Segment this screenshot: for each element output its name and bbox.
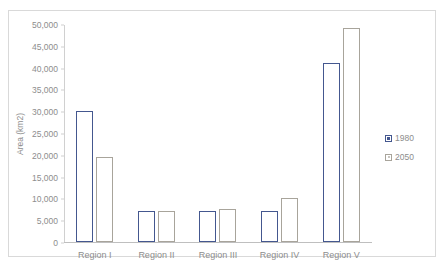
y-axis-tick-label: 45,000	[12, 42, 58, 52]
bar-group-bars	[249, 24, 311, 242]
bar-2050-region-iii[interactable]	[219, 209, 236, 242]
bar-2050-region-iv[interactable]	[281, 198, 298, 242]
y-axis-tick-label: 0	[12, 238, 58, 248]
y-axis-tick-label: 5,000	[12, 216, 58, 226]
bar-1980-region-v[interactable]	[323, 63, 340, 242]
bar-1980-region-iii[interactable]	[199, 211, 216, 242]
legend-item-1980[interactable]: 1980	[385, 133, 431, 143]
x-axis-tick-label: Region II	[126, 250, 188, 260]
plot-area: 05,00010,00015,00020,00025,00030,00035,0…	[64, 25, 372, 243]
legend-swatch-icon	[385, 154, 392, 161]
bar-group: Region II	[126, 24, 188, 242]
y-axis-tick-label: 20,000	[12, 151, 58, 161]
y-axis-tick-label: 10,000	[12, 194, 58, 204]
bar-1980-region-i[interactable]	[76, 111, 93, 242]
chart-frame: Area (km2) 05,00010,00015,00020,00025,00…	[8, 10, 436, 257]
bar-2050-region-ii[interactable]	[158, 211, 175, 242]
y-axis-tick-label: 50,000	[12, 20, 58, 30]
bar-1980-region-ii[interactable]	[138, 211, 155, 242]
x-axis-tick-label: Region IV	[249, 250, 311, 260]
y-axis-tick-label: 30,000	[12, 107, 58, 117]
y-axis-tick-label: 40,000	[12, 64, 58, 74]
legend-item-2050[interactable]: 2050	[385, 152, 431, 162]
legend-label: 2050	[395, 152, 414, 162]
y-axis-tick-label: 25,000	[12, 129, 58, 139]
legend-swatch-icon	[385, 135, 392, 142]
legend-label: 1980	[395, 133, 414, 143]
bar-1980-region-iv[interactable]	[261, 211, 278, 242]
bar-group: Region IV	[249, 24, 311, 242]
bar-group-bars	[187, 24, 249, 242]
x-axis-tick-label: Region I	[64, 250, 126, 260]
bar-group-bars	[64, 24, 126, 242]
x-axis-tick-label: Region V	[310, 250, 372, 260]
top-caption-fragment	[28, 0, 228, 7]
y-axis-tick-mark	[61, 243, 64, 244]
x-axis-line	[64, 242, 372, 243]
bar-group: Region V	[310, 24, 372, 242]
bar-2050-region-v[interactable]	[343, 28, 360, 242]
plot-inner: 05,00010,00015,00020,00025,00030,00035,0…	[64, 25, 372, 243]
bar-group-bars	[126, 24, 188, 242]
legend: 19802050	[385, 133, 431, 171]
bar-group-bars	[310, 24, 372, 242]
y-axis-tick-label: 15,000	[12, 173, 58, 183]
bar-group: Region III	[187, 24, 249, 242]
y-axis-tick-label: 35,000	[12, 85, 58, 95]
bar-group: Region I	[64, 24, 126, 242]
x-axis-tick-label: Region III	[187, 250, 249, 260]
bar-2050-region-i[interactable]	[96, 157, 113, 242]
